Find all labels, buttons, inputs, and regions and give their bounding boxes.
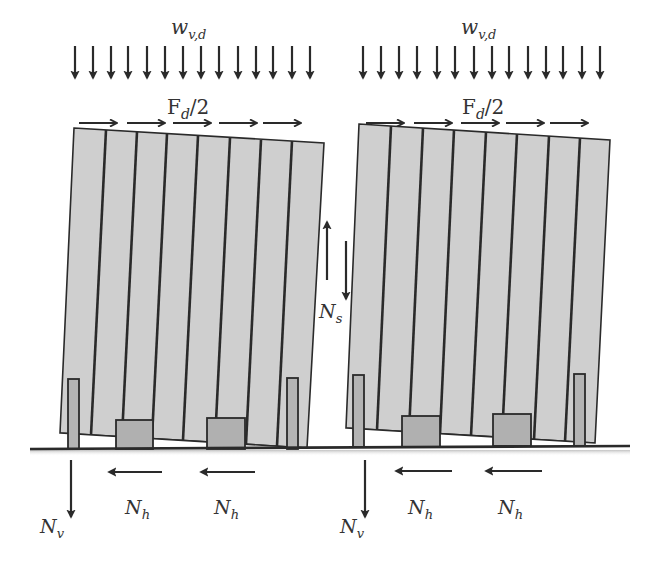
right-horizontal-reaction-label-1: Nh <box>407 496 433 522</box>
left-distributed-load-arrows <box>75 46 310 78</box>
left-load-label: wv,d <box>171 15 206 42</box>
left-wall-anchor-block-2 <box>207 418 245 449</box>
left-wall-hold-down-right <box>287 378 298 449</box>
right-wall: wv,d Fd/2 <box>339 15 610 541</box>
right-force-label: Fd/2 <box>462 95 504 122</box>
joint-shear-label: Ns <box>318 300 343 326</box>
right-wall-hold-down-right <box>574 374 585 446</box>
right-wall-anchor-block-2 <box>493 414 531 446</box>
left-horizontal-reaction-label-1: Nh <box>124 496 150 522</box>
left-wall: wv,d Fd/2 <box>39 15 324 541</box>
right-wall-hold-down-left <box>353 375 364 447</box>
left-wall-hold-down-left <box>68 379 79 449</box>
right-wall-anchor-block-1 <box>402 416 440 447</box>
left-vertical-reaction-label: Nv <box>39 515 65 541</box>
left-force-label: Fd/2 <box>167 95 209 122</box>
left-wall-anchor-block-1 <box>116 420 153 449</box>
right-vertical-reaction-label: Nv <box>339 515 365 541</box>
right-distributed-load-arrows <box>363 46 600 78</box>
right-load-label: wv,d <box>461 15 496 42</box>
right-horizontal-reaction-label-2: Nh <box>497 496 523 522</box>
ground <box>30 446 630 456</box>
left-horizontal-reaction-label-2: Nh <box>213 496 239 522</box>
shear-wall-diagram: wv,d Fd/2 <box>0 0 660 567</box>
joint-shear: Ns <box>318 222 346 326</box>
